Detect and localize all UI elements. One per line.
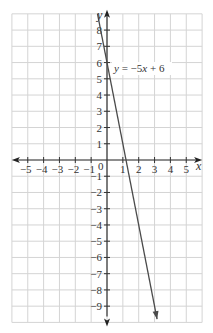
origin-label: 0 bbox=[98, 160, 104, 172]
x-tick-label: −3 bbox=[52, 163, 64, 175]
y-tick-label: 5 bbox=[97, 73, 103, 85]
x-tick-label: 3 bbox=[152, 163, 158, 175]
y-tick-label: 1 bbox=[97, 138, 103, 150]
svg-text:y = −5x + 6: y = −5x + 6 bbox=[113, 62, 165, 74]
x-tick-label: 5 bbox=[184, 163, 190, 175]
y-tick-label: −8 bbox=[90, 284, 102, 296]
y-tick-label: 6 bbox=[97, 57, 103, 69]
x-tick-label: −4 bbox=[36, 163, 48, 175]
y-tick-label: 4 bbox=[97, 89, 103, 101]
x-tick-label: 2 bbox=[136, 163, 142, 175]
x-tick-label: −2 bbox=[67, 163, 79, 175]
x-tick-label: 1 bbox=[120, 163, 126, 175]
x-tick-labels: −5−4−3−2−112345 bbox=[20, 163, 190, 175]
y-tick-label: −9 bbox=[90, 300, 102, 312]
equation-label: y = −5x + 6 bbox=[112, 62, 172, 75]
y-tick-label: −2 bbox=[90, 186, 102, 198]
y-tick-label: 7 bbox=[97, 40, 103, 52]
x-tick-label: −5 bbox=[20, 163, 32, 175]
coordinate-plane-chart: −5−4−3−2−112345 87654321−1−2−3−4−5−6−7−8… bbox=[0, 0, 213, 333]
y-tick-label: −1 bbox=[90, 170, 102, 182]
y-tick-label: −6 bbox=[90, 251, 102, 263]
y-tick-label: 3 bbox=[97, 105, 103, 117]
y-tick-label: −4 bbox=[90, 219, 102, 231]
y-tick-label: −7 bbox=[90, 268, 102, 280]
line-arrow-icon bbox=[153, 311, 159, 319]
equation-part-2: + 6 bbox=[147, 62, 165, 74]
equation-part-1: = −5 bbox=[119, 62, 143, 74]
x-axis-label: x bbox=[195, 159, 202, 173]
y-axis-label: y bbox=[96, 8, 103, 22]
y-tick-label: −3 bbox=[90, 203, 102, 215]
x-tick-label: 4 bbox=[168, 163, 174, 175]
y-tick-label: 2 bbox=[97, 122, 103, 134]
y-tick-label: −5 bbox=[90, 235, 102, 247]
